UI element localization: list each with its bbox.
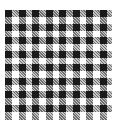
dark-check	[46, 51, 53, 58]
dark-check	[86, 24, 93, 31]
dark-check	[5, 37, 12, 44]
dark-check	[19, 24, 26, 31]
dark-check	[100, 64, 107, 71]
dark-check	[100, 78, 107, 85]
dark-check	[73, 105, 80, 112]
dark-check	[32, 78, 39, 85]
dark-check	[86, 37, 93, 44]
dark-check	[46, 24, 53, 31]
dark-check	[32, 105, 39, 112]
dark-check	[86, 51, 93, 58]
dark-check	[5, 64, 12, 71]
dark-check	[5, 24, 12, 31]
dark-check	[59, 64, 66, 71]
dark-check	[32, 37, 39, 44]
dark-check	[59, 10, 66, 17]
dark-check	[73, 51, 80, 58]
dark-check	[86, 78, 93, 85]
dark-check	[100, 51, 107, 58]
dark-check	[32, 51, 39, 58]
dark-check	[5, 10, 12, 17]
dark-check	[19, 37, 26, 44]
dark-check	[32, 91, 39, 98]
dark-check	[86, 10, 93, 17]
dark-check	[59, 51, 66, 58]
dark-check	[5, 51, 12, 58]
dark-check	[5, 91, 12, 98]
dark-check	[73, 24, 80, 31]
dark-check	[5, 105, 12, 112]
dark-check	[32, 24, 39, 31]
dark-check	[73, 64, 80, 71]
dark-check	[19, 78, 26, 85]
dark-check	[46, 10, 53, 17]
dark-check	[32, 10, 39, 17]
dark-check	[59, 78, 66, 85]
dark-check	[46, 91, 53, 98]
dark-check	[46, 105, 53, 112]
dark-check	[59, 91, 66, 98]
gingham-swatch	[5, 10, 112, 120]
dark-check	[59, 105, 66, 112]
dark-check	[100, 91, 107, 98]
dark-check	[73, 91, 80, 98]
dark-check	[46, 64, 53, 71]
dark-check	[46, 78, 53, 85]
dark-check	[100, 24, 107, 31]
dark-check	[32, 64, 39, 71]
dark-check	[19, 91, 26, 98]
dark-check	[73, 37, 80, 44]
dark-check	[19, 51, 26, 58]
dark-check	[100, 37, 107, 44]
dark-check	[19, 105, 26, 112]
dark-check	[86, 64, 93, 71]
dark-check	[46, 37, 53, 44]
dark-check	[59, 24, 66, 31]
dark-check	[59, 37, 66, 44]
dark-check	[100, 105, 107, 112]
dark-check	[19, 64, 26, 71]
dark-check	[86, 91, 93, 98]
dark-check	[19, 10, 26, 17]
dark-check	[86, 105, 93, 112]
dark-check	[73, 10, 80, 17]
dark-check	[73, 78, 80, 85]
dark-check	[100, 10, 107, 17]
dark-check	[5, 78, 12, 85]
